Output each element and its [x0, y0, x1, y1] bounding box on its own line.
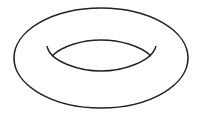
torus-figure	[0, 0, 200, 116]
torus-drawing	[0, 0, 200, 116]
torus-outer-outline	[14, 8, 188, 108]
torus-hole-lower-arc	[47, 46, 156, 71]
torus-hole-upper-arc	[52, 40, 151, 56]
